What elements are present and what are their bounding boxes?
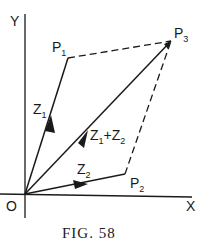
point-p2-label: P2 xyxy=(130,175,144,194)
y-axis-label: Y xyxy=(10,13,20,29)
vector-z2-label: Z2 xyxy=(77,161,91,180)
vector-z1 xyxy=(25,58,68,194)
vector-z1-label: Z1 xyxy=(33,101,47,120)
x-axis-label: X xyxy=(186,198,196,214)
figure-caption: FIG. 58 xyxy=(62,225,116,239)
dashed-edge-p1-p3 xyxy=(68,41,171,58)
origin-label: O xyxy=(6,198,17,214)
point-p1-label: P1 xyxy=(52,39,66,58)
dashed-edge-p2-p3 xyxy=(125,41,171,174)
vector-z1-plus-z2 xyxy=(25,41,171,194)
point-p3-label: P3 xyxy=(174,25,188,44)
vector-z2 xyxy=(25,174,125,194)
x-axis xyxy=(0,194,192,197)
vector-addition-diagram: Y X O P1 P2 P3 Z1 Z2 Z1+Z2 FIG. 58 xyxy=(0,0,202,239)
vector-sum-label: Z1+Z2 xyxy=(90,127,125,146)
